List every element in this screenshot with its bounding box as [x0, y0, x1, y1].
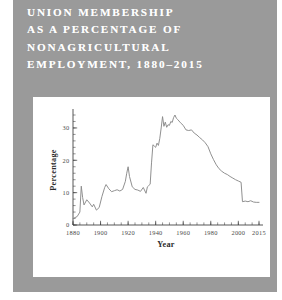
title-line-4: EMPLOYMENT, 1880–2015 [27, 56, 267, 73]
svg-text:1960: 1960 [176, 229, 190, 236]
y-axis-major-ticks [73, 128, 77, 225]
x-tick-labels: 18801900192019401960198020002015 [66, 229, 266, 236]
line-chart: 18801900192019401960198020002015 0102030… [33, 97, 270, 277]
svg-text:20: 20 [63, 157, 70, 164]
title-line-2: AS A PERCENTAGE OF [27, 21, 267, 38]
svg-text:0: 0 [66, 221, 69, 228]
svg-text:1880: 1880 [66, 229, 80, 236]
svg-text:30: 30 [63, 124, 70, 131]
svg-text:1940: 1940 [149, 229, 163, 236]
svg-text:1920: 1920 [121, 229, 135, 236]
page-root: UNION MEMBERSHIP AS A PERCENTAGE OF NONA… [0, 0, 282, 300]
data-series-line [73, 115, 259, 219]
svg-text:1900: 1900 [94, 229, 108, 236]
svg-text:2000: 2000 [231, 229, 245, 236]
x-axis-major-ticks [73, 221, 259, 225]
svg-text:2015: 2015 [252, 229, 266, 236]
page-title: UNION MEMBERSHIP AS A PERCENTAGE OF NONA… [27, 4, 267, 73]
svg-text:1980: 1980 [204, 229, 218, 236]
title-line-1: UNION MEMBERSHIP [27, 4, 267, 21]
title-line-3: NONAGRICULTURAL [27, 39, 267, 56]
chart-card: 18801900192019401960198020002015 0102030… [33, 97, 270, 277]
svg-text:10: 10 [63, 189, 70, 196]
x-axis-title: Year [157, 240, 175, 249]
y-tick-labels: 0102030 [63, 124, 70, 228]
y-axis-title: Percentage [49, 149, 58, 191]
